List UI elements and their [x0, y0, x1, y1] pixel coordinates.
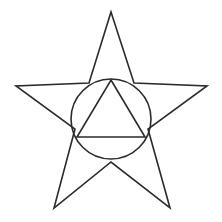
star-shape — [16, 12, 207, 208]
figure-canvas — [0, 0, 222, 222]
circle-shape — [71, 79, 151, 159]
line-drawing — [0, 0, 222, 222]
triangle-shape — [77, 80, 145, 137]
